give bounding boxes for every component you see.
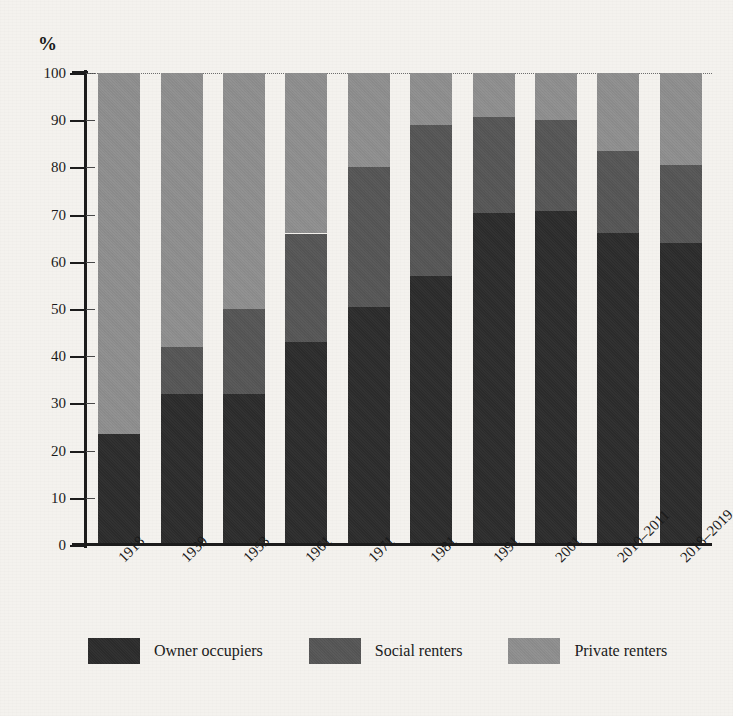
stacked-bar[interactable] (98, 73, 140, 545)
y-axis-label-60: 60 (32, 254, 66, 269)
y-axis-tick-50 (70, 309, 86, 311)
y-axis-tick-60 (70, 262, 86, 264)
bar-slot-2010-2011 (587, 73, 649, 545)
y-axis-label-100: 100 (32, 66, 66, 81)
bar-segment-owner-occupiers[interactable] (660, 243, 702, 545)
x-axis-slot: 1918 (88, 548, 150, 628)
bar-segment-social-renters[interactable] (161, 347, 203, 394)
stacked-bar[interactable] (660, 73, 702, 545)
y-axis-tick-70 (70, 215, 86, 217)
y-axis-tick-90 (70, 120, 86, 122)
y-axis-label-0: 0 (32, 538, 66, 553)
bar-segment-social-renters[interactable] (660, 165, 702, 243)
legend-item-private-renters[interactable]: Private renters (508, 638, 667, 664)
bar-segment-owner-occupiers[interactable] (285, 342, 327, 545)
y-axis-label-90: 90 (32, 113, 66, 128)
x-axis-slot: 2001 (525, 548, 587, 628)
bar-slot-1939 (150, 73, 212, 545)
legend-swatch (88, 638, 140, 664)
x-axis-slot: 1953 (213, 548, 275, 628)
bar-segment-owner-occupiers[interactable] (98, 434, 140, 545)
bar-segment-owner-occupiers[interactable] (223, 394, 265, 545)
y-axis-tick-100 (70, 73, 86, 75)
plot-area (88, 73, 712, 545)
x-axis-slot: 1991 (462, 548, 524, 628)
bar-segment-private-renters[interactable] (660, 73, 702, 165)
bar-segment-private-renters[interactable] (98, 73, 140, 434)
bar-group (88, 73, 712, 545)
bar-segment-owner-occupiers[interactable] (348, 307, 390, 545)
bar-slot-2001 (525, 73, 587, 545)
bar-segment-social-renters[interactable] (535, 120, 577, 211)
bar-segment-social-renters[interactable] (473, 117, 515, 213)
y-axis-labels: 1009080706050403020100 (28, 0, 66, 716)
stacked-bar[interactable] (285, 73, 327, 545)
bar-segment-social-renters[interactable] (348, 167, 390, 306)
bar-slot-1953 (213, 73, 275, 545)
legend-label: Private renters (574, 642, 667, 660)
bar-segment-social-renters[interactable] (285, 234, 327, 343)
bar-slot-1961 (275, 73, 337, 545)
y-axis-label-50: 50 (32, 302, 66, 317)
bar-segment-private-renters[interactable] (410, 73, 452, 125)
bar-slot-1991 (462, 73, 524, 545)
bar-segment-owner-occupiers[interactable] (161, 394, 203, 545)
stacked-bar[interactable] (473, 73, 515, 545)
legend-label: Social renters (375, 642, 463, 660)
bar-segment-private-renters[interactable] (473, 73, 515, 117)
bar-segment-owner-occupiers[interactable] (473, 213, 515, 545)
stacked-bar-chart: % 1009080706050403020100 191819391953196… (0, 0, 733, 716)
y-axis-tick-80 (70, 167, 86, 169)
bar-slot-1981 (400, 73, 462, 545)
stacked-bar[interactable] (597, 73, 639, 545)
legend-label: Owner occupiers (154, 642, 263, 660)
x-axis-slot: 1939 (150, 548, 212, 628)
bar-segment-private-renters[interactable] (223, 73, 265, 309)
bar-segment-private-renters[interactable] (161, 73, 203, 347)
bar-segment-private-renters[interactable] (535, 73, 577, 120)
y-axis-label-80: 80 (32, 160, 66, 175)
y-axis-label-10: 10 (32, 490, 66, 505)
stacked-bar[interactable] (223, 73, 265, 545)
stacked-bar[interactable] (348, 73, 390, 545)
y-axis-tick-40 (70, 356, 86, 358)
y-axis-tick-10 (70, 498, 86, 500)
y-axis-tick-20 (70, 451, 86, 453)
legend-item-social-renters[interactable]: Social renters (309, 638, 463, 664)
bar-segment-social-renters[interactable] (597, 151, 639, 234)
bar-segment-social-renters[interactable] (223, 309, 265, 394)
y-axis-label-40: 40 (32, 349, 66, 364)
x-axis-slot: 2018–2019 (650, 548, 712, 628)
y-axis-label-70: 70 (32, 207, 66, 222)
legend-item-owner-occupiers[interactable]: Owner occupiers (88, 638, 263, 664)
bar-segment-private-renters[interactable] (348, 73, 390, 167)
y-axis-label-30: 30 (32, 396, 66, 411)
x-axis-slot: 2010–2011 (587, 548, 649, 628)
x-axis-slot: 1961 (275, 548, 337, 628)
stacked-bar[interactable] (410, 73, 452, 545)
stacked-bar[interactable] (161, 73, 203, 545)
x-axis-labels: 191819391953196119711981199120012010–201… (88, 548, 712, 628)
x-axis-slot: 1971 (338, 548, 400, 628)
stacked-bar[interactable] (535, 73, 577, 545)
bar-segment-owner-occupiers[interactable] (535, 211, 577, 545)
x-axis-slot: 1981 (400, 548, 462, 628)
bar-segment-owner-occupiers[interactable] (410, 276, 452, 545)
chart-legend: Owner occupiersSocial rentersPrivate ren… (88, 638, 648, 664)
legend-swatch (508, 638, 560, 664)
bar-slot-2018-2019 (650, 73, 712, 545)
y-axis-tick-30 (70, 403, 86, 405)
y-axis-label-20: 20 (32, 443, 66, 458)
bar-slot-1971 (338, 73, 400, 545)
bar-slot-1918 (88, 73, 150, 545)
legend-swatch (309, 638, 361, 664)
bar-segment-private-renters[interactable] (285, 73, 327, 233)
bar-segment-owner-occupiers[interactable] (597, 233, 639, 545)
bar-segment-private-renters[interactable] (597, 73, 639, 151)
bar-segment-social-renters[interactable] (410, 125, 452, 276)
